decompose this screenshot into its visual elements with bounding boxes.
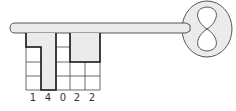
key-diagram: 1 4 0 2 2 — [0, 0, 236, 111]
label-2: 4 — [45, 92, 51, 103]
label-1: 1 — [30, 92, 36, 103]
label-3: 0 — [60, 92, 66, 103]
label-5: 2 — [89, 92, 95, 103]
bit-grid — [26, 33, 100, 90]
bit-labels: 1 4 0 2 2 — [30, 92, 95, 103]
key-shaft — [10, 23, 190, 33]
label-4: 2 — [74, 92, 80, 103]
